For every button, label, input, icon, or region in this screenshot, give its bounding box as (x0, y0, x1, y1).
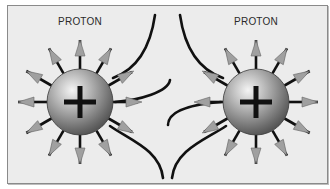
field-line-left-upper (113, 15, 155, 78)
field-lines (110, 15, 226, 178)
field-line-left-lower (110, 126, 163, 178)
proton-sphere-right (223, 69, 289, 135)
field-line-right-lower (172, 126, 226, 178)
field-line-left-middle (115, 80, 170, 102)
proton-repulsion-diagram (0, 0, 330, 189)
field-line-right-upper (180, 15, 223, 78)
proton-sphere-left (47, 69, 113, 135)
